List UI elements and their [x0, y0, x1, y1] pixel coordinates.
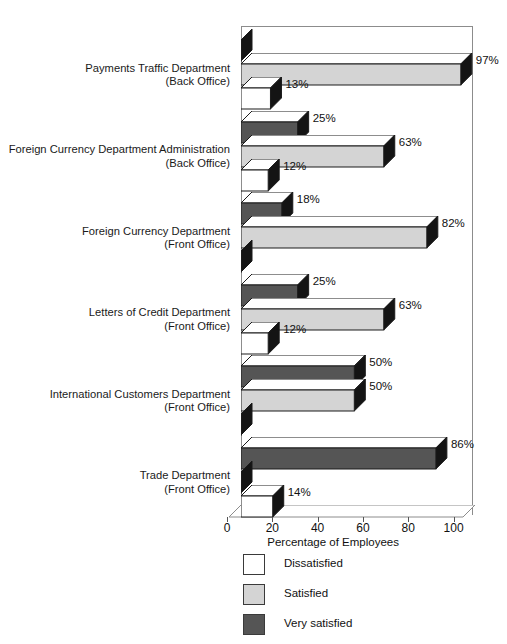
category-label-line2: (Front Office): [89, 320, 230, 334]
bar-value-label: 14%: [288, 486, 311, 498]
bar-front-face: [241, 251, 242, 272]
bar-value-label: 12%: [283, 160, 306, 172]
bar-front-face: [241, 333, 268, 354]
legend-swatch: [243, 554, 265, 575]
category-label: Foreign Currency Department Administrati…: [9, 143, 230, 170]
x-axis-tick-label: 80: [402, 521, 415, 535]
legend-swatch: [243, 614, 265, 635]
bar-top-face: [241, 379, 365, 390]
bar-value-label: 50%: [369, 356, 392, 368]
x-axis-tick-label: 20: [266, 521, 279, 535]
category-label-line2: (Front Office): [140, 483, 230, 497]
category-label: Letters of Credit Department(Front Offic…: [89, 306, 230, 333]
bar-3d-shape: [241, 322, 281, 356]
category-label: Foreign Currency Department(Front Office…: [82, 225, 230, 252]
bar-top-face: [241, 135, 395, 146]
bar-side-face: [241, 240, 252, 272]
bar-front-face: [241, 414, 242, 435]
category-label-line2: (Front Office): [82, 238, 230, 252]
x-axis-title: Percentage of Employees: [267, 536, 399, 548]
category-label-line1: International Customers Department: [50, 388, 230, 400]
bar-value-label: 25%: [313, 275, 336, 287]
bar-3d-shape: [241, 77, 283, 111]
bar-3d-shape: [241, 485, 286, 519]
category-label-line2: (Back Office): [9, 157, 230, 171]
category-label: International Customers Department(Front…: [50, 388, 230, 415]
category-label: Payments Traffic Department(Back Office): [85, 62, 230, 89]
category-label-line2: (Back Office): [85, 75, 230, 89]
bar-chart: Payments Traffic Department(Back Office)…: [0, 0, 507, 644]
category-label-line1: Payments Traffic Department: [85, 62, 230, 74]
bar: [241, 379, 367, 413]
legend-label: Dissatisfied: [284, 557, 343, 569]
bar-value-label: 86%: [451, 438, 474, 450]
bar-front-face: [241, 88, 270, 109]
bar-top-face: [241, 298, 395, 309]
bar-value-label: 50%: [369, 380, 392, 392]
bar-top-face: [241, 274, 309, 285]
bar: [241, 322, 281, 356]
bar-3d-shape: [241, 403, 254, 437]
bar-value-label: 97%: [476, 54, 499, 66]
bar-top-face: [241, 437, 447, 448]
bar: [241, 216, 440, 250]
bar-side-face: [241, 403, 252, 435]
bar-value-label: 18%: [297, 193, 320, 205]
category-label-line1: Foreign Currency Department Administrati…: [9, 143, 230, 155]
x-axis-tick-label: 60: [356, 521, 369, 535]
bar-3d-shape: [241, 437, 449, 471]
bar-front-face: [241, 227, 427, 248]
x-axis-tick-label: 100: [444, 521, 464, 535]
legend-label: Satisfied: [284, 587, 328, 599]
bar-front-face: [241, 170, 268, 191]
bar-value-label: 12%: [283, 323, 306, 335]
bar-value-label: 13%: [285, 78, 308, 90]
bar-value-label: 63%: [399, 299, 422, 311]
bar-value-label: 25%: [313, 112, 336, 124]
bar-3d-shape: [241, 159, 281, 193]
bar-top-face: [241, 355, 365, 366]
bar: [241, 77, 283, 111]
bar: [241, 485, 286, 519]
category-label-line1: Foreign Currency Department: [82, 225, 230, 237]
bar-3d-shape: [241, 240, 254, 274]
category-label: Trade Department(Front Office): [140, 469, 230, 496]
bar-top-face: [241, 53, 472, 64]
bar: [241, 437, 449, 471]
bar-top-face: [241, 216, 438, 227]
bar-3d-shape: [241, 379, 367, 413]
bar-value-label: 82%: [442, 217, 465, 229]
bar-3d-shape: [241, 216, 440, 250]
bar-front-face: [241, 390, 354, 411]
bar-front-face: [241, 496, 273, 517]
x-axis-tick-label: 0: [224, 521, 231, 535]
bar-value-label: 63%: [399, 136, 422, 148]
bar-front-face: [241, 448, 436, 469]
bar: [241, 403, 254, 437]
legend-label: Very satisfied: [284, 617, 352, 629]
bar-top-face: [241, 111, 309, 122]
category-label-line1: Trade Department: [140, 469, 230, 481]
category-label-line2: (Front Office): [50, 401, 230, 415]
legend-swatch: [243, 584, 265, 605]
category-label-line1: Letters of Credit Department: [89, 306, 230, 318]
x-axis-tick-label: 40: [311, 521, 324, 535]
bar: [241, 240, 254, 274]
bar: [241, 159, 281, 193]
